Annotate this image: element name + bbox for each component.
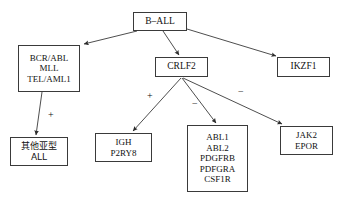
node-other-subtype-all[interactable]: 其他亚型ALL — [10, 137, 68, 166]
node-label-line: JAK2 — [296, 130, 317, 141]
node-label-line: EPOR — [295, 141, 318, 152]
node-crlf2[interactable]: CRLF2 — [155, 57, 208, 77]
edge-sign-label-plus-crlf2: + — [147, 91, 153, 101]
edge-arrow — [187, 29, 276, 56]
node-abl-group[interactable]: ABL1ABL2PDGFRBPDFGRACSF1R — [187, 125, 248, 192]
node-ikzf1[interactable]: IKZF1 — [277, 57, 330, 77]
edge-arrow — [133, 78, 181, 131]
node-label-line: CRLF2 — [167, 61, 196, 72]
node-label-line: TEL/AML1 — [27, 74, 71, 85]
node-label-line: ABL1 — [206, 132, 229, 143]
node-label-line: 其他亚型 — [21, 141, 57, 152]
edge-arrow — [163, 31, 179, 55]
node-label-line: ABL2 — [206, 143, 229, 154]
node-label-line: ALL — [31, 152, 47, 163]
node-label-line: IGH — [116, 137, 132, 148]
diagram-canvas: B–ALLBCR/ABLMLLTEL/AML1CRLF2IKZF1其他亚型ALL… — [0, 0, 345, 207]
node-label-line: MLL — [40, 63, 59, 74]
node-label-line: PDFGRA — [200, 164, 236, 175]
node-label-line: PDGFRB — [200, 153, 235, 164]
edge-layer — [0, 0, 345, 207]
node-igh-p2ry8[interactable]: IGHP2RY8 — [95, 133, 152, 162]
node-bcr-abl-group[interactable]: BCR/ABLMLLTEL/AML1 — [18, 45, 80, 92]
node-jak2-epor[interactable]: JAK2EPOR — [280, 126, 333, 155]
node-label-line: B–ALL — [145, 16, 175, 27]
node-label-line: CSF1R — [204, 174, 231, 185]
edge-arrow — [182, 78, 216, 123]
node-label-line: IKZF1 — [291, 61, 317, 72]
edge-sign-label-minus-jak2: − — [238, 87, 244, 97]
edge-arrow — [84, 31, 137, 44]
edge-sign-label-plus-left: + — [48, 110, 54, 120]
edge-sign-label-minus-abl: − — [192, 99, 198, 109]
edge-arrow — [36, 92, 42, 135]
node-label-line: BCR/ABL — [30, 53, 69, 64]
node-label-line: P2RY8 — [110, 148, 136, 159]
node-b-all[interactable]: B–ALL — [133, 12, 187, 31]
